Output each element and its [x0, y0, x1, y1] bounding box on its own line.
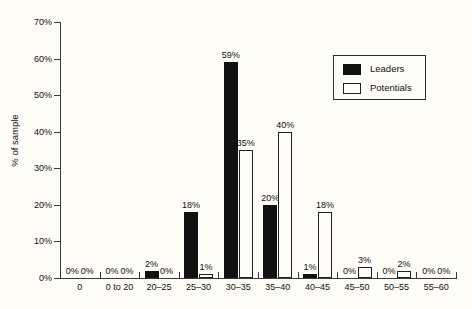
x-axis-tick: [258, 272, 259, 279]
bar-potentials: [278, 132, 292, 278]
bar-leaders: [263, 205, 277, 278]
y-axis-tick: [54, 22, 61, 23]
y-axis-tick: [54, 168, 61, 169]
y-axis-tick-label: 70%: [34, 18, 52, 27]
x-axis-category-label: 55–60: [416, 282, 456, 292]
y-axis-tick-label: 0%: [39, 274, 52, 283]
y-axis-tick-label: 30%: [34, 164, 52, 173]
legend-item-potentials: Potentials: [343, 81, 412, 95]
bar-potentials: [358, 267, 372, 278]
y-axis-tick: [54, 132, 61, 133]
y-axis-tick: [54, 95, 61, 96]
bar-value-label: 18%: [310, 201, 340, 210]
legend-swatch-potentials: [343, 83, 361, 94]
x-axis-tick: [218, 272, 219, 279]
x-axis-category-label: 30–35: [218, 282, 258, 292]
x-axis-category-label: 25–30: [179, 282, 219, 292]
x-axis-category-label: 45–50: [337, 282, 377, 292]
x-axis-category-label: 0: [60, 282, 100, 292]
x-axis-tick: [298, 272, 299, 279]
bar-leaders: [303, 274, 317, 278]
bar-leaders: [224, 62, 238, 278]
bar-potentials: [239, 150, 253, 278]
bar-value-label: 59%: [216, 51, 246, 60]
y-axis-tick: [54, 278, 61, 279]
x-axis-category-label: 35–40: [258, 282, 298, 292]
bar-potentials: [397, 271, 411, 278]
bar-potentials: [318, 212, 332, 278]
y-axis-tick-label: 20%: [34, 201, 52, 210]
chart-legend: Leaders Potentials: [333, 55, 426, 100]
legend-label-leaders: Leaders: [370, 64, 404, 74]
y-axis-title: % of sample: [9, 91, 20, 191]
x-axis-category-label: 40–45: [298, 282, 338, 292]
legend-label-potentials: Potentials: [370, 83, 412, 93]
x-axis-category-label: 50–55: [377, 282, 417, 292]
bar-value-label: 0%: [429, 267, 459, 276]
bar-value-label: 1%: [191, 263, 221, 272]
bar-value-label: 3%: [350, 256, 380, 265]
y-axis-tick-label: 40%: [34, 128, 52, 137]
legend-swatch-leaders: [343, 64, 361, 75]
x-axis-category-label: 0 to 20: [100, 282, 140, 292]
x-axis-category-label: 20–25: [139, 282, 179, 292]
y-axis-tick: [54, 241, 61, 242]
bar-value-label: 18%: [176, 201, 206, 210]
y-axis-tick-label: 50%: [34, 91, 52, 100]
legend-item-leaders: Leaders: [343, 62, 404, 76]
bar-potentials: [199, 274, 213, 278]
bar-chart: 0%10%20%30%40%50%60%70% % of sample 00 t…: [0, 0, 472, 309]
y-axis-tick: [54, 205, 61, 206]
y-axis-tick-label: 60%: [34, 55, 52, 64]
y-axis-tick-label: 10%: [34, 237, 52, 246]
bar-value-label: 35%: [231, 139, 261, 148]
bar-value-label: 0%: [152, 267, 182, 276]
bar-value-label: 40%: [270, 121, 300, 130]
y-axis-tick: [54, 59, 61, 60]
